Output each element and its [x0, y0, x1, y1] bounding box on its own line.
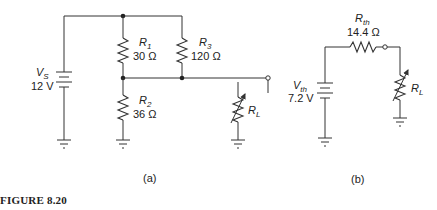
rth-value: 14.4 Ω	[347, 26, 380, 38]
ground-icon	[57, 140, 71, 148]
battery-vth	[317, 83, 333, 98]
subfigure-label-b: (b)	[351, 173, 364, 185]
r3-symbol: R3	[199, 36, 212, 51]
resistor-r2	[118, 95, 128, 120]
circuit-b: Rth 14.4 Ω Vth 7.2 V RL	[288, 12, 423, 185]
r1-symbol: R1	[139, 36, 151, 51]
vth-value: 7.2 V	[288, 92, 314, 104]
resistor-r1	[118, 38, 128, 63]
resistor-r3	[177, 38, 187, 63]
rl-symbol-b: RL	[411, 82, 423, 97]
ground-icon	[393, 118, 407, 126]
rl-symbol-a: RL	[248, 104, 260, 119]
vs-value: 12 V	[31, 80, 54, 92]
rth-symbol: Rth	[355, 12, 370, 27]
figure-caption: FIGURE 8.20	[0, 194, 67, 206]
ground-icon	[318, 138, 332, 146]
r2-symbol: R2	[139, 94, 152, 109]
ground-icon	[116, 140, 130, 148]
resistor-rth	[350, 42, 376, 52]
battery-vs	[56, 72, 72, 87]
r1-value: 30 Ω	[133, 50, 157, 62]
junction-dot-right	[180, 76, 185, 81]
r2-value: 36 Ω	[133, 108, 157, 120]
variable-resistor-rl	[231, 82, 245, 123]
vs-symbol: VS	[36, 66, 49, 81]
r3-value: 120 Ω	[191, 50, 221, 62]
subfigure-label-a: (a)	[143, 172, 156, 184]
ground-icon	[231, 140, 245, 148]
circuit-a: VS 12 V R1 30 Ω R3 120 Ω R2 36 Ω	[31, 14, 270, 184]
figure-canvas: VS 12 V R1 30 Ω R3 120 Ω R2 36 Ω	[0, 0, 437, 210]
terminal-open	[383, 45, 387, 49]
